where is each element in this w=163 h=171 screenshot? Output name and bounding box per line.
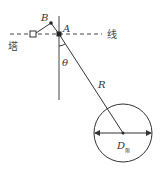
label-tower: 塔	[8, 40, 18, 52]
label-r: R	[97, 79, 106, 90]
diagram-canvas: B A 线 塔 θ R D 限	[0, 0, 163, 171]
point-b-dot	[49, 21, 53, 25]
angle-arc	[59, 44, 65, 46]
segment-tower-b	[36, 23, 51, 33]
label-b: B	[40, 12, 48, 23]
label-d: D	[116, 140, 125, 151]
label-theta: θ	[62, 57, 68, 68]
radius-line	[59, 34, 123, 133]
label-a: A	[62, 23, 70, 34]
label-d-subscript: 限	[125, 147, 130, 154]
label-line: 线	[107, 28, 117, 40]
tower-square-icon	[30, 31, 36, 37]
